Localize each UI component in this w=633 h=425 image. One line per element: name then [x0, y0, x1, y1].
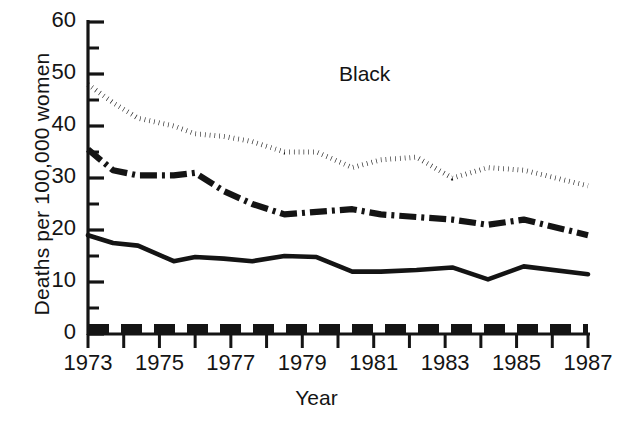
series-annotation-black: Black [339, 62, 390, 86]
chart-figure: 0102030405060 19731975197719791981198319… [0, 0, 633, 425]
series-line-dotted-series [88, 84, 588, 185]
y-axis-title: Deaths per 100,000 women [30, 39, 54, 329]
chart-series-group [88, 84, 588, 328]
y-axis-major-ticks [88, 22, 104, 334]
x-axis-title: Year [0, 386, 633, 410]
x-axis-ticks [88, 334, 588, 348]
series-line-solid-series [88, 235, 588, 279]
series-line-dash-dot-series [88, 149, 588, 235]
x-tick-label: 1987 [543, 350, 633, 376]
y-tick-label: 60 [32, 7, 76, 33]
